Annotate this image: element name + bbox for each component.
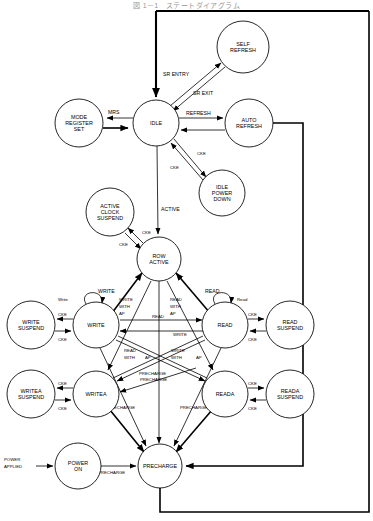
state-node-auto_refresh[interactable]: AUTOREFRESH (225, 99, 273, 147)
state-label-auto_refresh: REFRESH (236, 123, 262, 129)
state-label-read_suspend: SUSPEND (277, 325, 303, 331)
edge-label-r2w: WRITE (173, 332, 187, 337)
state-label-write: WRITE (87, 322, 105, 328)
state-label-idle_power_down: DOWN (213, 196, 230, 202)
state-node-write[interactable]: WRITE (73, 302, 119, 348)
state-label-auto_refresh: AUTO (242, 117, 257, 123)
edge-acs-in (128, 228, 143, 243)
edge-label-write-with-ap-3: AP (119, 311, 125, 316)
edge-label-sr-exit: SR EXIT (193, 90, 214, 96)
state-diagram-canvas: 図 1－1 ステートダイアグラム (0, 0, 373, 521)
state-node-read_suspend[interactable]: READSUSPEND (266, 301, 314, 349)
state-label-active_clock_suspend: CLOCK (101, 209, 120, 215)
edge-label-precharge-cross: PRECHARGE (139, 371, 166, 376)
edge-cke-up (171, 143, 203, 180)
edge-label-acs-in: CKE (142, 230, 151, 235)
state-label-write_suspend: SUSPEND (18, 325, 44, 331)
edge-sr-entry (170, 63, 221, 106)
edge-precharge-outer-loop (160, 11, 369, 512)
state-nodes: SELFREFRESHMODEREGISTERSETIDLEAUTOREFRES… (7, 21, 314, 489)
state-label-idle_power_down: POWER (212, 190, 232, 196)
edge-label-write-with-ap-1: WRITE (119, 297, 133, 302)
edge-label-refresh: REFRESH (186, 110, 211, 116)
edge-label-w2r: READ (152, 314, 164, 319)
state-label-self_refresh: SELF (236, 41, 250, 47)
state-label-power_on: ON (74, 466, 82, 472)
edge-label-cke-up: CKE (170, 165, 179, 170)
edge-label-power-applied-2: APPLIED (4, 464, 22, 469)
edge-label-ws-out: CKE (58, 337, 67, 342)
state-label-reada_suspend: READA (281, 388, 300, 394)
edge-label-ras-in: CKE (248, 381, 257, 386)
edge-label-read-with-ap-1: READ (170, 297, 182, 302)
state-label-write_suspend: WRITE (22, 319, 40, 325)
state-label-mode_register: MODE (71, 114, 88, 120)
edge-label-acs-out: CKE (119, 242, 128, 247)
state-label-row_active: ACTIVE (149, 259, 169, 265)
state-diagram-svg: SR ENTRY SR EXIT MRS REFRESH CKE CKE (0, 0, 373, 521)
state-node-write_suspend[interactable]: WRITESUSPEND (7, 301, 55, 349)
state-label-active_clock_suspend: ACTIVE (100, 203, 120, 209)
edge-label-read-with-ap-3: AP (170, 311, 176, 316)
state-label-reada: READA (216, 391, 235, 397)
edge-label-write-loop: Write (58, 297, 69, 302)
edge-label-active: ACTIVE (161, 206, 180, 212)
edge-label-r2wa-2: WITH (171, 355, 182, 360)
state-label-row_active: ROW (152, 253, 166, 259)
edge-label-rs-out: CKE (248, 337, 257, 342)
edge-label-poweron-precharge: PRECHARGE (98, 470, 125, 475)
state-label-self_refresh: REFRESH (230, 47, 256, 53)
edge-label-w2ra-1: READ (124, 348, 136, 353)
edge-label-was-in: CKE (58, 381, 67, 386)
state-node-precharge[interactable]: PRECHARGE (138, 444, 182, 488)
state-label-idle: IDLE (150, 120, 162, 126)
state-label-writea_suspend: SUSPEND (18, 394, 44, 400)
state-node-writea[interactable]: WRITEA (73, 371, 119, 417)
edge-cke-down (174, 139, 206, 177)
edge-active (157, 146, 158, 234)
edge-label-r2wa-3: AP (196, 355, 202, 360)
state-node-self_refresh[interactable]: SELFREFRESH (217, 21, 269, 73)
state-label-writea: WRITEA (86, 391, 107, 397)
edge-label-mrs: MRS (108, 109, 120, 115)
state-node-read[interactable]: READ (202, 302, 248, 348)
state-label-idle_power_down: IDLE (216, 184, 228, 190)
state-label-mode_register: SET (74, 126, 85, 132)
edge-label-power-applied-1: POWER (4, 457, 20, 462)
state-label-active_clock_suspend: SUSPEND (97, 215, 123, 221)
state-label-writea_suspend: WRITEA (21, 388, 42, 394)
edge-label-r2wa-1: WRITE (171, 348, 185, 353)
state-label-read: READ (218, 322, 233, 328)
edge-label-sr-entry: SR ENTRY (163, 71, 190, 77)
state-node-active_clock_suspend[interactable]: ACTIVECLOCKSUSPEND (86, 188, 134, 236)
state-node-idle_power_down[interactable]: IDLEPOWERDOWN (199, 170, 245, 216)
state-label-read_suspend: READ (283, 319, 298, 325)
state-node-reada_suspend[interactable]: READASUSPEND (266, 370, 314, 418)
edge-label-write: WRITE (98, 288, 115, 294)
state-node-writea_suspend[interactable]: WRITEASUSPEND (7, 370, 55, 418)
state-node-row_active[interactable]: ROWACTIVE (137, 237, 181, 281)
state-label-precharge: PRECHARGE (143, 463, 178, 469)
edge-label-read-with-ap-2: WITH (170, 304, 181, 309)
state-label-mode_register: REGISTER (65, 120, 93, 126)
state-node-power_on[interactable]: POWERON (55, 443, 101, 489)
edge-label-w2ra-2: WITH (124, 355, 135, 360)
edge-label-cke-down: CKE (197, 151, 206, 156)
edge-label-ws-in: CKE (58, 312, 67, 317)
state-node-reada[interactable]: READA (202, 371, 248, 417)
edge-label-read-loop: Read (237, 297, 248, 302)
state-node-idle[interactable]: IDLE (133, 100, 179, 146)
edge-label-ras-out: CKE (248, 406, 257, 411)
edge-label-write-with-ap-2: WITH (119, 304, 130, 309)
edge-label-rs-in: CKE (248, 312, 257, 317)
edge-label-was-out: CKE (58, 406, 67, 411)
state-node-mode_register[interactable]: MODEREGISTERSET (55, 99, 103, 147)
state-label-reada_suspend: SUSPEND (277, 394, 303, 400)
state-label-power_on: POWER (68, 460, 88, 466)
